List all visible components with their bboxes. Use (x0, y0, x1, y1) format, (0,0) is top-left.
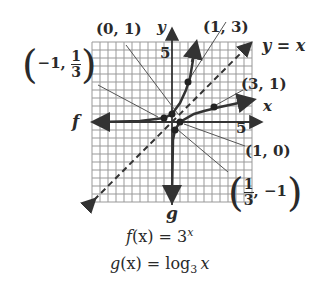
point-label-third-neg1: (13, −1) (228, 172, 303, 212)
f-equation: f(x) = 3x (126, 226, 193, 246)
point-label-1-3: (1, 3) (203, 18, 249, 36)
y-axis-label: y (157, 18, 166, 36)
f-curve-label: f (72, 111, 79, 131)
g-equation: g(x) = log3 x (110, 254, 210, 276)
point-label-0-1: (0, 1) (96, 20, 142, 38)
point-label-3-1: (3, 1) (241, 75, 287, 93)
identity-line-label: y = x (262, 36, 305, 55)
g-curve-label: g (166, 203, 178, 223)
point-label-neg1-third: (−1, 13) (22, 44, 97, 84)
x-axis-label: x (263, 97, 272, 115)
x-tick-5: 5 (236, 119, 246, 137)
y-tick-5: 5 (160, 44, 170, 62)
point-label-1-0: (1, 0) (245, 142, 291, 160)
